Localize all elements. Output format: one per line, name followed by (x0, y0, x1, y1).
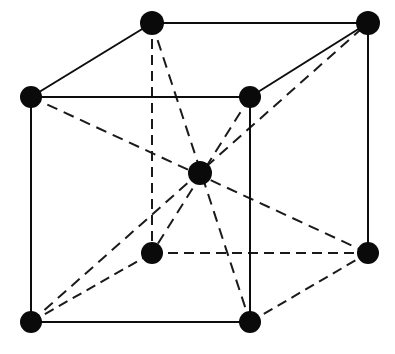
hidden-edge-bottom-right-depth (250, 253, 368, 322)
bcc-unit-cell-figure (0, 0, 395, 354)
atom-back-top-right (356, 11, 380, 35)
atom-body-center (188, 161, 212, 185)
atom-back-bottom-left (141, 242, 163, 264)
hidden-edge-bottom-left-depth (31, 253, 152, 322)
atom-front-bottom-left (20, 311, 42, 333)
bcc-lattice-svg (0, 0, 395, 354)
atom-front-top-right (239, 86, 261, 108)
cube-edge-top-right-depth (250, 23, 368, 97)
atom-front-bottom-right (239, 311, 261, 333)
atom-back-bottom-right (357, 242, 379, 264)
cube-edge-top-left-depth (31, 23, 152, 97)
atom-back-top-left (140, 11, 164, 35)
atom-front-top-left (20, 86, 42, 108)
